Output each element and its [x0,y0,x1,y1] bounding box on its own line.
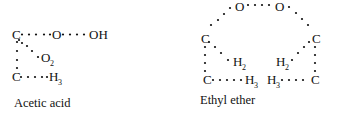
bond-c-left-c-bottom [204,46,206,72]
bond-c-right-h2 [291,41,310,61]
ethyl-ether-structure: O O C C H 2 H 2 C H 3 H 3 C [200,0,321,107]
acetic-acid-structure: C O OH O 2 C H 3 [12,27,108,110]
bond-c-left-o-left [210,7,231,26]
bond-c1-o [21,33,51,35]
atom-h3-left-subscript: 3 [254,81,258,90]
atom-h2-left-subscript: 2 [242,63,246,72]
atom-o-bridge: O [52,27,61,42]
atom-o2-subscript: 2 [50,59,54,68]
atom-h2-left: H [233,54,242,69]
bond-o-o [247,4,270,6]
bond-o-right-c-right [288,6,309,26]
bond-c2-h3 [20,76,48,78]
bond-h3-c-bottom-right [281,79,304,81]
atom-o2: O [41,50,50,65]
bond-o-oh [62,33,85,35]
atom-c-bottom-left: C [203,72,212,87]
atom-oh: OH [89,27,108,42]
atom-h3-subscript: 3 [58,78,62,87]
bond-c1-o2 [18,39,39,58]
atom-c-left: C [201,31,210,46]
atom-h2-right-subscript: 2 [285,63,289,72]
atom-h3-right: H [267,72,276,87]
atom-h3-right-subscript: 3 [276,81,280,90]
bond-c-left-h2 [208,41,229,61]
atom-h3: H [49,69,58,84]
atom-c-bottom-right: C [311,72,320,87]
atom-h2-right: H [276,54,285,69]
bond-c-right-c-bottom [314,46,316,72]
atom-o-right: O [275,0,284,14]
atom-c2: C [12,69,21,84]
bond-c-bottom-left-h3 [212,79,242,81]
atom-o-left: O [235,0,244,14]
atom-c-right: C [312,31,321,46]
label-ethyl-ether: Ethyl ether [200,93,256,107]
molecule-diagram: C O OH O 2 C H 3 [0,0,338,123]
label-acetic-acid: Acetic acid [14,96,71,110]
atom-h3-left: H [245,72,254,87]
bond-c1-c2 [16,41,18,69]
